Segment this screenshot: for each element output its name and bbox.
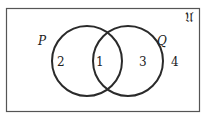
universe-label: 𝔘 (185, 10, 194, 25)
set-p-label: P (37, 34, 47, 48)
region-intersection: 1 (96, 55, 104, 69)
region-outside: 4 (171, 55, 179, 69)
venn-diagram: 𝔘 P Q 2 1 3 4 (0, 0, 205, 121)
region-q-only: 3 (139, 55, 147, 69)
region-p-only: 2 (57, 55, 65, 69)
set-q-label: Q (157, 34, 167, 48)
